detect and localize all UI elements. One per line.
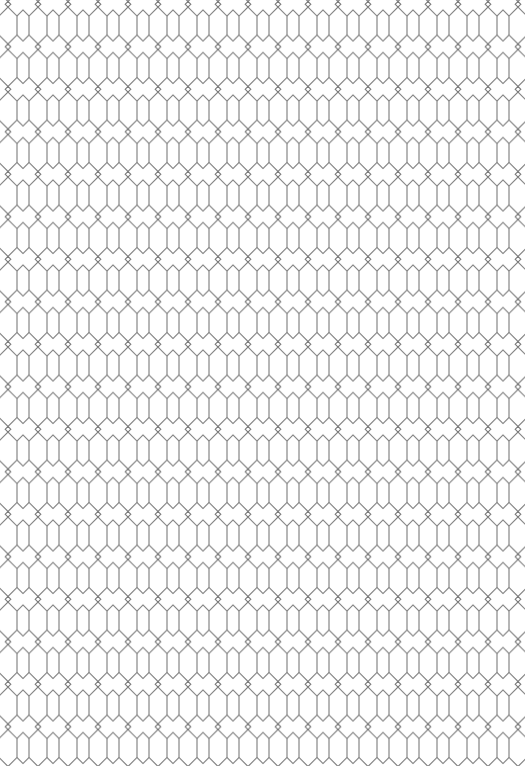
geometric-pattern-canvas (0, 0, 525, 766)
hexagon-trellis-pattern (0, 0, 525, 766)
